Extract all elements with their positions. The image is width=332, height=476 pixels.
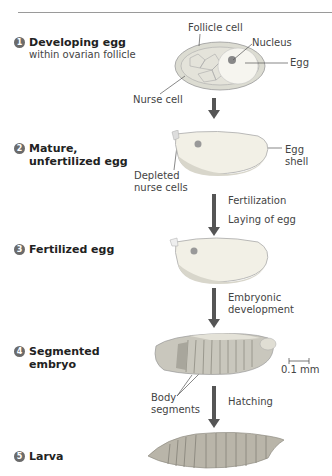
step-number-3: 3	[14, 244, 25, 255]
label-body-segments-2: segments	[151, 404, 200, 416]
label-body-segments-1: Body	[151, 392, 176, 404]
step-5-title: Larva	[29, 450, 63, 463]
step-number-2: 2	[14, 143, 25, 154]
arrow-2-head	[208, 227, 220, 236]
step-2-title-2: unfertilized egg	[29, 155, 128, 168]
step-2: 2 Mature, unfertilized egg	[14, 142, 128, 168]
label-depleted-2: nurse cells	[134, 182, 188, 194]
arrow-3	[212, 288, 216, 320]
fertilized-egg	[166, 236, 272, 286]
transition-embryonic-1: Embryonic	[228, 292, 281, 304]
transition-laying: Laying of egg	[228, 214, 296, 226]
label-egg-shell-1: Egg	[285, 144, 304, 156]
step-4-title-2: embryo	[29, 358, 100, 371]
label-depleted-1: Depleted	[134, 170, 180, 182]
step-2-title: Mature,	[29, 142, 128, 155]
step-4-title: Segmented	[29, 345, 100, 358]
arrow-4	[212, 386, 216, 420]
arrow-1-head	[208, 110, 220, 119]
step-4: 4 Segmented embryo	[14, 345, 100, 371]
arrow-2	[212, 194, 216, 228]
arrow-3-head	[208, 319, 220, 328]
scale-bar-label: 0.1 mm	[281, 364, 320, 376]
transition-fertilization: Fertilization	[228, 195, 286, 207]
larva	[146, 424, 286, 470]
mature-egg	[168, 130, 272, 178]
step-number-5: 5	[14, 451, 25, 462]
label-egg-shell-2: shell	[285, 156, 308, 168]
transition-hatching: Hatching	[228, 396, 273, 408]
step-5: 5 Larva	[14, 450, 63, 463]
transition-embryonic-2: development	[228, 304, 294, 316]
step-number-4: 4	[14, 346, 25, 357]
step-3: 3 Fertilized egg	[14, 243, 114, 256]
segmented-embryo	[150, 330, 280, 380]
step-3-title: Fertilized egg	[29, 243, 114, 256]
